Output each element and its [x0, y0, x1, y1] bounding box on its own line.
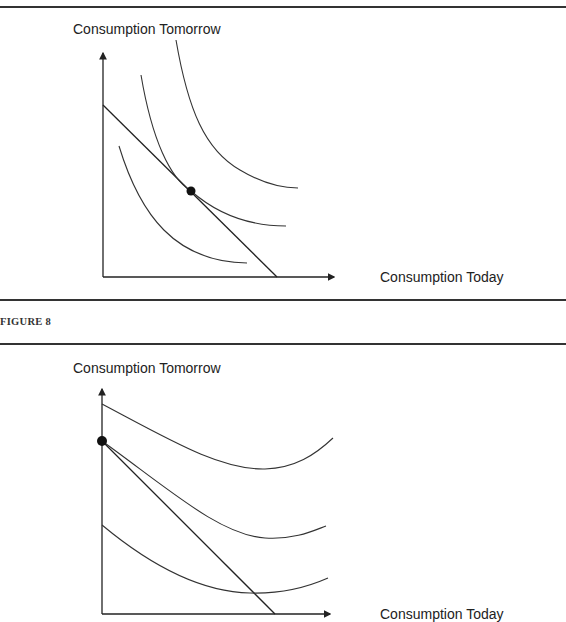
- bottom-diagram: [97, 389, 333, 614]
- top-diagram: [103, 40, 334, 277]
- bottom-budget-line: [102, 441, 275, 614]
- top-indifference-curve-mid: [141, 75, 286, 226]
- top-indifference-curve-low: [119, 146, 247, 263]
- diagrams-canvas: [0, 0, 566, 622]
- top-tangency-point: [187, 187, 196, 196]
- bottom-indifference-curve-high: [102, 404, 333, 469]
- bottom-indifference-curve-low: [102, 525, 328, 593]
- bottom-indifference-curve-mid: [102, 441, 326, 538]
- bottom-corner-point: [97, 436, 107, 446]
- top-indifference-curve-high: [176, 40, 298, 188]
